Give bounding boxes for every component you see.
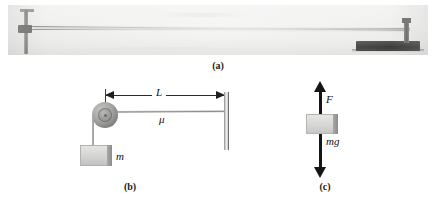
pulley-axle [104,114,107,117]
free-body-mass-block-side-face [333,114,338,134]
hanging-mass-block [80,145,110,166]
length-arrow-left-icon [105,91,114,99]
string-horizontal-segment [106,110,226,113]
stand-clamp [18,25,32,33]
label-length-L: L [152,86,166,98]
label-tension-force-F: F [326,93,333,105]
vibrator-head [402,18,411,23]
caption-panel-c: (c) [285,181,365,192]
string-vertical-segment [92,115,94,148]
free-body-mass-block [306,114,336,134]
panel-b-schematic: L μ m [60,80,250,180]
label-mass-m: m [116,150,124,162]
hanging-mass-block-side-face [107,145,112,166]
wall-support-edge [228,92,229,150]
vibrator-base [356,41,420,51]
force-down-arrow-shaft [319,128,322,170]
label-linear-density-mu: μ [159,113,165,125]
photo-texture-streak-lower [68,47,268,50]
panel-a-photograph [8,5,428,55]
physics-figure: (a) L μ m (b) F mg (c) [0,0,436,205]
photo-frame [8,5,428,55]
caption-panel-b: (b) [90,181,170,192]
caption-panel-a: (a) [0,60,436,71]
vibrator-post [404,20,409,43]
photo-texture-streak-upper [158,13,248,17]
force-down-arrowhead-icon [314,167,326,178]
panel-c-free-body-diagram: F mg [285,80,365,180]
label-weight-force-mg: mg [326,135,339,147]
